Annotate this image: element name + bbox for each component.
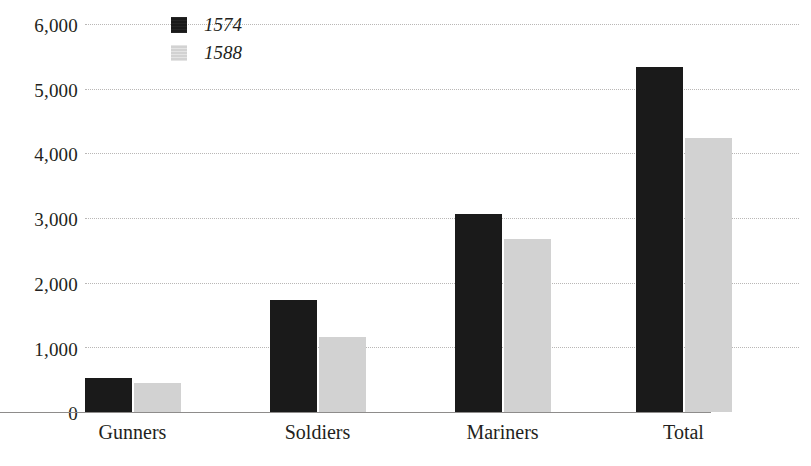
bar-chart: 6,000 5,000 4,000 3,000 2,000 1,000 0: [0, 0, 811, 466]
bar-group-gunners: [85, 24, 180, 412]
legend-swatch-icon-1574: [171, 17, 187, 33]
y-tick-label: 0: [6, 404, 78, 423]
x-tick-label-mariners: Mariners: [455, 420, 550, 444]
bar-1588-total: [685, 138, 732, 412]
bar-group-total: [636, 24, 731, 412]
legend-item-1574: 1574: [171, 13, 242, 37]
x-tick-label-gunners: Gunners: [85, 420, 180, 444]
bar-1588-mariners: [504, 239, 551, 412]
legend-label-1588: 1588: [204, 42, 242, 64]
bar-1588-soldiers: [319, 337, 366, 412]
bar-group-soldiers: [270, 24, 365, 412]
bar-1574-soldiers: [270, 300, 317, 412]
x-tick-label-total: Total: [636, 420, 731, 444]
bar-1574-gunners: [85, 378, 132, 412]
bar-1588-gunners: [134, 383, 181, 412]
chart-legend: 1574 1588: [171, 13, 242, 69]
y-tick-label: 6,000: [6, 16, 78, 35]
legend-label-1574: 1574: [204, 14, 242, 36]
y-tick-label: 3,000: [6, 210, 78, 229]
legend-item-1588: 1588: [171, 41, 242, 65]
x-tick-label-soldiers: Soldiers: [270, 420, 365, 444]
bar-1574-total: [636, 67, 683, 412]
bar-group-mariners: [455, 24, 550, 412]
y-tick-label: 2,000: [6, 275, 78, 294]
y-tick-label: 5,000: [6, 81, 78, 100]
bar-1574-mariners: [455, 214, 502, 412]
y-tick-label: 4,000: [6, 145, 78, 164]
y-axis: 6,000 5,000 4,000 3,000 2,000 1,000 0: [0, 0, 78, 466]
y-tick-label: 1,000: [6, 340, 78, 359]
plot-area: [85, 24, 799, 412]
legend-swatch-icon-1588: [171, 45, 187, 61]
x-axis-baseline: [0, 412, 711, 413]
